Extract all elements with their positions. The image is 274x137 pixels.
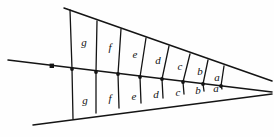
cell-label-lower-e: e: [132, 90, 137, 102]
vertex-dot: [219, 84, 223, 88]
cell-label-upper-e: e: [133, 48, 138, 60]
upper-divider-2: [96, 21, 97, 72]
ray-group: [8, 8, 272, 125]
vertex-dot: [94, 70, 98, 74]
cell-label-upper-g: g: [81, 36, 87, 48]
lower-divider-4: [140, 77, 141, 103]
upper-divider-1: [70, 10, 72, 69]
upper-divider-7: [203, 60, 208, 84]
wedge-figure: g f e d c b a g f e d c b a: [0, 0, 274, 137]
vertex-dot: [116, 72, 120, 76]
vertex-dot: [70, 67, 74, 71]
vertex-dot: [201, 82, 205, 86]
upper-divider-8: [221, 66, 224, 86]
point-marker: [50, 64, 54, 68]
upper-divider-6: [183, 54, 190, 82]
cell-label-upper-f: f: [108, 41, 113, 53]
cell-label-lower-b: b: [195, 84, 201, 96]
upper-row-labels: g f e d c b a: [81, 36, 220, 83]
lower-divider-1: [72, 69, 73, 119]
upper-divider-3: [118, 29, 121, 74]
cell-label-lower-a: a: [213, 82, 219, 94]
cell-label-lower-f: f: [108, 92, 113, 104]
cell-label-lower-c: c: [176, 86, 181, 98]
vertex-dot: [138, 75, 142, 79]
cell-label-upper-d: d: [155, 54, 161, 66]
lower-divider-5: [162, 79, 163, 98]
lower-row-labels: g f e d c b a: [82, 82, 219, 106]
upper-divider-5: [162, 46, 169, 79]
cell-label-upper-b: b: [197, 65, 203, 77]
geometric-wedge-diagram: g f e d c b a g f e d c b a: [0, 0, 274, 137]
upper-divider-4: [140, 38, 146, 77]
cell-label-lower-d: d: [153, 88, 159, 100]
vertex-dot: [160, 77, 164, 81]
cell-label-lower-g: g: [82, 94, 88, 106]
cell-label-upper-c: c: [178, 60, 183, 72]
vertex-dot: [181, 80, 185, 84]
lower-divider-3: [118, 74, 119, 108]
